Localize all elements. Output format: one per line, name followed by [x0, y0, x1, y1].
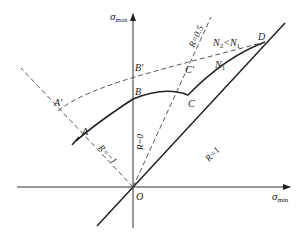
point-a: A — [81, 126, 89, 137]
tick-a — [72, 137, 79, 145]
point-a-prime: A′ — [53, 97, 63, 108]
point-b-prime: B′ — [135, 62, 144, 73]
diagram-canvas: σmax σmin O B′ B A′ A C′ C D N1 N2<N1 R=… — [0, 0, 303, 247]
point-b: B — [135, 86, 141, 97]
ray-r-half-label: R=0.5 — [186, 23, 205, 49]
point-c: C — [188, 98, 195, 109]
r-one-line — [97, 23, 285, 226]
r-half-line — [133, 17, 211, 187]
point-c-prime: C′ — [185, 64, 195, 75]
origin-label: O — [136, 191, 143, 202]
curve-n1 — [76, 42, 265, 141]
ray-r-one-label: R=1 — [202, 145, 221, 164]
y-axis-label: σmax — [110, 10, 128, 24]
ray-r-zero-label: R=0 — [135, 133, 145, 151]
x-axis-label: σmin — [272, 190, 289, 204]
r-minus-one-line — [21, 68, 133, 187]
fatigue-diagram: σmax σmin O B′ B A′ A C′ C D N1 N2<N1 R=… — [0, 0, 303, 247]
ray-r-minus-one-label: R=−1 — [96, 142, 119, 166]
curve-n2 — [58, 42, 265, 111]
curve-n2-label: N2<N1 — [212, 37, 241, 50]
point-d: D — [257, 31, 266, 42]
